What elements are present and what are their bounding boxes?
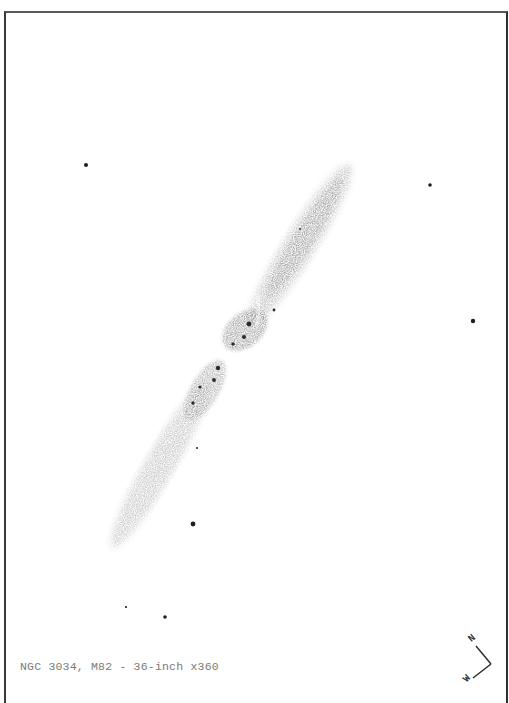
knot-dot: [198, 385, 201, 388]
star-dot: [163, 615, 167, 619]
star-dot: [196, 447, 198, 449]
knot-dot: [242, 335, 246, 339]
star-dot: [191, 522, 196, 527]
knot-dot: [299, 228, 301, 230]
knot-dot: [231, 342, 234, 345]
star-dot: [428, 183, 432, 187]
drawing-caption: NGC 3034, M82 - 36-inch x360: [20, 660, 219, 673]
knot-dot: [191, 401, 194, 404]
knot-dot: [273, 309, 276, 312]
star-dot: [84, 163, 88, 167]
star-dot: [125, 606, 127, 608]
knot-dot: [247, 322, 252, 327]
compass-rose: N W: [455, 628, 505, 687]
knot-dot: [216, 366, 220, 370]
field-stars: [84, 163, 475, 619]
star-dot: [471, 319, 475, 323]
knot-dot: [212, 378, 216, 382]
